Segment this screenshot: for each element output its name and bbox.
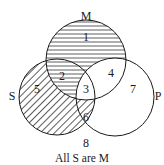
region-label-7: 7 (130, 82, 136, 96)
caption: All S are M (55, 152, 109, 164)
set-label-m: M (81, 9, 92, 23)
set-label-p: P (155, 89, 162, 103)
set-label-s: S (9, 89, 16, 103)
region-label-8: 8 (83, 136, 89, 150)
region-label-2: 2 (59, 69, 65, 83)
region-label-6: 6 (83, 110, 89, 124)
region-label-3: 3 (83, 82, 89, 96)
region-label-1: 1 (83, 30, 89, 44)
venn-diagram: M S P 1 2 3 4 5 6 7 8 All S are M (0, 0, 164, 165)
region-label-4: 4 (108, 66, 114, 80)
region-label-5: 5 (34, 82, 40, 96)
